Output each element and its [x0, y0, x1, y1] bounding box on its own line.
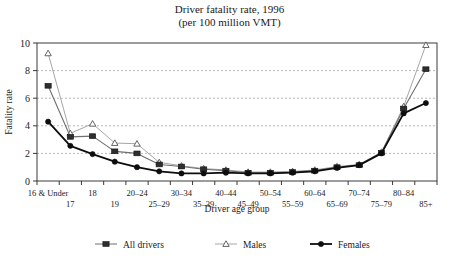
y-tick-label: 10: [20, 38, 30, 49]
marker-square: [45, 83, 51, 88]
marker-circle: [379, 151, 384, 156]
x-category-label: 50–54: [260, 188, 282, 198]
marker-circle: [201, 171, 206, 176]
x-category-label: 16 & Under: [28, 188, 69, 198]
y-tick-label: 0: [25, 176, 30, 187]
legend-item[interactable]: All drivers: [95, 240, 164, 250]
marker-square: [89, 134, 95, 139]
x-category-label: 55–59: [282, 199, 303, 209]
x-category-label: 25–29: [149, 199, 170, 209]
y-tick-label: 4: [25, 120, 30, 131]
series-line: [48, 103, 426, 173]
y-axis-title: Fatality rate: [4, 89, 14, 135]
x-category-label: 65–69: [326, 199, 347, 209]
x-category-label: 80–84: [393, 188, 415, 198]
data-series-layer: [45, 42, 429, 176]
x-category-label: 40–44: [215, 188, 237, 198]
plot-border: [37, 43, 437, 181]
marker-square: [67, 134, 73, 139]
marker-square: [103, 242, 109, 247]
y-tick-label: 6: [25, 93, 30, 104]
legend-label: Females: [338, 240, 370, 250]
marker-circle: [134, 165, 139, 170]
marker-triangle: [89, 121, 95, 127]
series-line: [48, 69, 426, 173]
marker-circle: [223, 170, 228, 175]
marker-circle: [357, 163, 362, 168]
marker-square: [134, 151, 140, 156]
marker-circle: [290, 170, 295, 175]
gridlines: [37, 71, 437, 154]
marker-circle: [112, 159, 117, 164]
legend-item[interactable]: Males: [215, 240, 267, 250]
marker-circle: [46, 119, 51, 124]
chart-plot-area: 0246810 16 & Under17181920–2425–2930–343…: [0, 0, 459, 262]
x-category-label: 85+: [419, 199, 433, 209]
x-category-label: 60–64: [304, 188, 326, 198]
marker-square: [423, 67, 429, 72]
chart-legend: All driversMalesFemales: [95, 240, 370, 250]
marker-square: [156, 162, 162, 167]
marker-square: [178, 164, 184, 169]
y-tick-label: 8: [25, 65, 30, 76]
x-category-label: 30–34: [171, 188, 193, 198]
marker-circle: [423, 100, 428, 105]
x-category-label: 18: [88, 188, 97, 198]
x-category-label: 70–74: [349, 188, 371, 198]
x-category-label: 17: [66, 199, 75, 209]
marker-circle: [90, 151, 95, 156]
marker-circle: [334, 165, 339, 170]
marker-square: [112, 149, 118, 154]
marker-circle: [179, 171, 184, 176]
y-axis-ticks: 0246810: [20, 38, 37, 187]
series-line: [48, 45, 426, 172]
y-tick-label: 2: [25, 148, 30, 159]
x-axis-ticks: [37, 181, 437, 185]
marker-circle: [157, 169, 162, 174]
legend-label: All drivers: [123, 240, 164, 250]
x-axis-title: Driver age group: [205, 204, 270, 214]
marker-circle: [401, 111, 406, 116]
x-category-label: 20–24: [126, 188, 148, 198]
plot-frame: [37, 43, 437, 181]
legend-label: Males: [243, 240, 267, 250]
marker-circle: [68, 143, 73, 148]
legend-item[interactable]: Females: [310, 240, 370, 250]
marker-circle: [246, 171, 251, 176]
marker-circle: [312, 169, 317, 174]
chart-figure: Driver fatality rate, 1996 (per 100 mill…: [0, 0, 459, 262]
marker-triangle: [45, 50, 51, 56]
marker-circle: [268, 171, 273, 176]
x-category-label: 19: [111, 199, 120, 209]
marker-square: [401, 106, 407, 111]
marker-circle: [318, 241, 323, 246]
x-category-label: 75–79: [371, 199, 392, 209]
